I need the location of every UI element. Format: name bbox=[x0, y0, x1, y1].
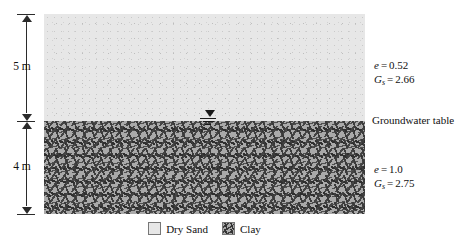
sand-gs-value: 2.66 bbox=[395, 73, 414, 85]
sand-specific-gravity: Gs=2.66 bbox=[374, 72, 415, 90]
clay-specific-gravity: Gs=2.75 bbox=[374, 176, 415, 194]
clay-void-ratio-equals: = bbox=[379, 163, 389, 175]
water-table-icon bbox=[196, 110, 226, 128]
clay-layer bbox=[44, 121, 365, 214]
clay-swatch-icon bbox=[222, 222, 235, 235]
sand-void-ratio: e=0.52 bbox=[374, 58, 415, 72]
dim-arrow-down-clay bbox=[22, 207, 32, 214]
sand-properties-annotation: e=0.52 Gs=2.66 bbox=[374, 58, 415, 90]
legend-item-dry-sand: Dry Sand bbox=[148, 222, 208, 235]
dim-cap-bottom bbox=[17, 214, 35, 215]
clay-properties-annotation: e=1.0 Gs=2.75 bbox=[374, 162, 415, 194]
dimension-label-clay: 4 m bbox=[0, 160, 44, 172]
water-table-line-2 bbox=[203, 121, 214, 122]
dimension-label-sand: 5 m bbox=[0, 60, 44, 72]
legend-item-clay: Clay bbox=[222, 222, 261, 235]
clay-void-ratio-value: 1.0 bbox=[389, 163, 403, 175]
clay-gs-value: 2.75 bbox=[395, 177, 414, 189]
sand-gs-equals: = bbox=[385, 73, 395, 85]
clay-gs-symbol: G bbox=[374, 177, 382, 189]
legend-label-dry-sand: Dry Sand bbox=[166, 223, 208, 235]
clay-void-ratio: e=1.0 bbox=[374, 162, 415, 176]
water-table-triangle-icon bbox=[205, 110, 215, 117]
sand-gs-symbol: G bbox=[374, 73, 382, 85]
water-table-line-3 bbox=[205, 124, 211, 125]
groundwater-table-label: Groundwater table bbox=[372, 114, 454, 126]
sand-void-ratio-value: 0.52 bbox=[389, 59, 408, 71]
sand-swatch-icon bbox=[148, 222, 161, 235]
sand-layer bbox=[44, 14, 365, 121]
figure-canvas: 5 m 4 m e=0.52 Gs=2.66 Groundwater table… bbox=[0, 0, 459, 243]
legend-label-clay: Clay bbox=[240, 223, 261, 235]
dim-arrow-down-sand bbox=[22, 114, 32, 121]
sand-void-ratio-equals: = bbox=[379, 59, 389, 71]
clay-gs-equals: = bbox=[385, 177, 395, 189]
water-table-line-1 bbox=[200, 118, 216, 119]
legend: Dry Sand Clay bbox=[44, 222, 365, 235]
